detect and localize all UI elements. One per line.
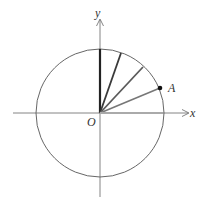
point-a-marker <box>158 86 163 91</box>
rotation-rays <box>100 49 163 113</box>
ray-72deg <box>100 53 121 113</box>
ray-50deg <box>100 67 143 113</box>
ray-A <box>100 88 160 113</box>
y-axis-label: y <box>94 6 101 20</box>
diagram-canvas: y x O A <box>0 0 208 208</box>
x-axis-label: x <box>189 106 196 120</box>
point-a-label: A <box>167 81 176 95</box>
origin-label: O <box>87 115 96 129</box>
